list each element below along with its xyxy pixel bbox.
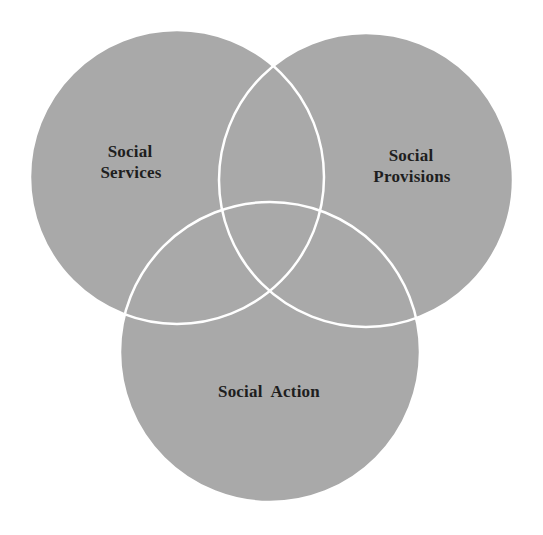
- venn-diagram: Social Services Social Provisions Social…: [0, 0, 543, 535]
- label-social-provisions-line1: Social: [389, 146, 434, 165]
- circle-social-action: [120, 202, 420, 502]
- label-social-provisions-line2: Provisions: [373, 167, 450, 186]
- label-social-services-line1: Social: [108, 142, 153, 161]
- label-social-action: Social Action: [218, 382, 320, 401]
- label-social-services-line2: Services: [100, 163, 161, 182]
- circle-fills: [30, 30, 513, 502]
